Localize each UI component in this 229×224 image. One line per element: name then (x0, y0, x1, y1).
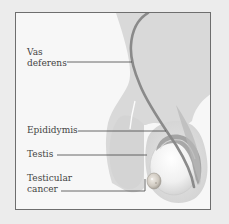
label-testicular-cancer-line2: cancer (27, 184, 58, 194)
penis-shape (109, 116, 144, 189)
label-testis: Testis (27, 149, 53, 160)
tumor-shape (147, 173, 161, 189)
label-vas-deferens-line1: Vas (27, 47, 43, 57)
label-vas-deferens-line2: deferens (27, 58, 67, 68)
label-testicular-cancer-line1: Testicular (27, 173, 72, 183)
label-epididymis: Epididymis (27, 125, 78, 136)
diagram-canvas: Vas deferens Epididymis Testis Testicula… (0, 0, 229, 224)
tumor-speckle (155, 182, 157, 184)
diagram-frame: Vas deferens Epididymis Testis Testicula… (15, 12, 211, 210)
label-testicular-cancer: Testicular cancer (27, 173, 77, 195)
tumor-speckle (151, 178, 153, 180)
label-vas-deferens: Vas deferens (27, 47, 77, 69)
